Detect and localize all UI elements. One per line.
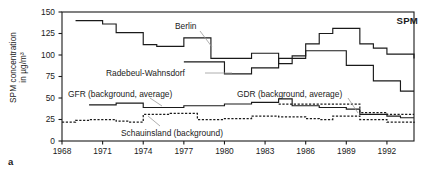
y-tick-label-25: 25	[29, 114, 55, 124]
x-tick-label-1968: 1968	[45, 146, 79, 156]
annotation-radebeul-wahnsdorf: Radebeul-Wahnsdorf	[106, 68, 185, 78]
y-tick-label-150: 150	[29, 7, 55, 17]
annotation-schauinsland-background: Schauinsland (background)	[121, 128, 223, 138]
y-tick-label-50: 50	[29, 93, 55, 103]
spm-chart-figure: SPM concentrationin µg/m³ a SPM 02550751…	[0, 0, 430, 175]
annotation-gfr-background: GFR (background, average)	[68, 89, 172, 99]
x-tick-label-1977: 1977	[167, 146, 201, 156]
x-tick-label-1971: 1971	[86, 146, 120, 156]
x-tick-label-1983: 1983	[248, 146, 282, 156]
series-gfr-background-average	[89, 99, 414, 118]
y-tick-label-75: 75	[29, 71, 55, 81]
leader-line-gfr-background	[150, 98, 162, 106]
leader-line-berlin	[200, 31, 212, 47]
x-tick-label-1974: 1974	[126, 146, 160, 156]
series-berlin	[76, 21, 414, 64]
x-tick-label-1989: 1989	[329, 146, 363, 156]
leader-line-schauinsland-background	[148, 116, 160, 126]
y-tick-label-100: 100	[29, 50, 55, 60]
x-tick-label-1992: 1992	[370, 146, 404, 156]
x-tick-label-1986: 1986	[289, 146, 323, 156]
x-tick-label-1980: 1980	[207, 146, 241, 156]
series-radebeul-wahnsdorf	[184, 51, 414, 91]
annotation-berlin: Berlin	[175, 21, 196, 31]
y-tick-label-0: 0	[29, 136, 55, 146]
annotation-gdr-background: GDR (background, average)	[237, 89, 342, 99]
leader-line-gdr-background	[348, 98, 358, 113]
y-tick-label-125: 125	[29, 28, 55, 38]
